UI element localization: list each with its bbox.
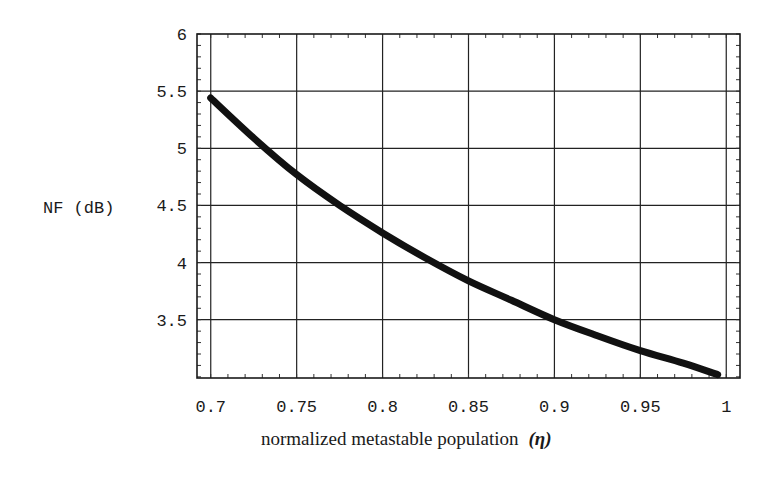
grid-lines (197, 34, 740, 378)
y-tick-labels: 3.544.555.56 (156, 26, 187, 331)
x-axis-label-text: normalized metastable population (261, 428, 519, 449)
eta-symbol: (η) (528, 428, 551, 450)
x-axis-label: normalized metastable population (η) (261, 428, 552, 450)
y-tick-label: 5 (177, 140, 187, 159)
x-tick-labels: 0.70.750.80.850.90.951 (195, 398, 731, 417)
x-tick-label: 0.75 (276, 398, 317, 417)
x-tick-label: 1 (721, 398, 731, 417)
x-tick-label: 0.85 (448, 398, 489, 417)
x-tick-label: 0.8 (367, 398, 398, 417)
y-tick-label: 3.5 (156, 312, 187, 331)
nf-vs-eta-chart: 0.70.750.80.850.90.951 3.544.555.56 NF (… (0, 0, 775, 480)
y-tick-label: 4.5 (156, 197, 187, 216)
y-tick-label: 4 (177, 255, 187, 274)
x-tick-label: 0.95 (620, 398, 661, 417)
y-tick-label: 6 (177, 26, 187, 45)
nf-curve (211, 98, 718, 375)
x-tick-label: 0.7 (195, 398, 226, 417)
x-tick-label: 0.9 (539, 398, 570, 417)
y-tick-label: 5.5 (156, 83, 187, 102)
y-axis-label: NF (dB) (43, 199, 114, 218)
